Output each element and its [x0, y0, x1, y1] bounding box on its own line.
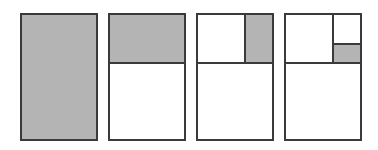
divider-horizontal: [110, 62, 184, 64]
divider-horizontal: [286, 62, 360, 64]
shaded-top-half: [110, 15, 184, 63]
shaded-eighth: [333, 44, 360, 63]
panel-3: [196, 13, 274, 141]
shaded-top-right-quarter: [245, 15, 272, 63]
divider-vertical: [332, 15, 334, 63]
panel-4: [284, 13, 362, 141]
panel-1: [20, 13, 98, 141]
panel-2: [108, 13, 186, 141]
divider-horizontal-small: [333, 43, 360, 45]
divider-horizontal: [198, 62, 272, 64]
divider-vertical: [244, 15, 246, 63]
